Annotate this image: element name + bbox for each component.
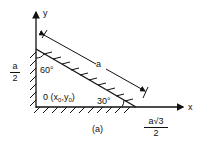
caption: (a) [92,125,103,134]
y-axis-label: y [43,9,48,18]
y-axis-hatch [30,52,36,106]
left-fraction: a 2 [10,62,20,83]
angle-label-60: 60° [40,66,54,75]
dimension-line-a [44,35,96,64]
x-axis-label: x [188,103,193,112]
dimension-tick-bottom [143,87,148,98]
bottom-fraction: a√3 2 [144,117,168,138]
angle-label-30: 30° [97,97,111,106]
origin-label: 0 (x0,y0) [43,93,75,103]
hypotenuse-label: a [96,60,101,69]
angle-arc-60 [36,54,44,58]
x-axis-hatch [34,107,130,113]
angle-arc-30 [122,100,124,107]
